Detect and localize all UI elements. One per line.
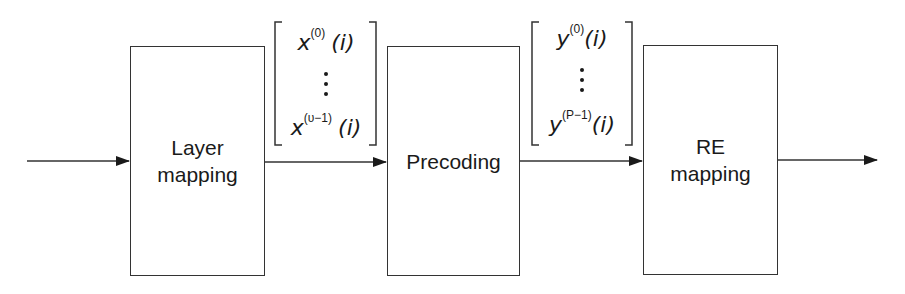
y-symbol: y (557, 26, 570, 51)
x-top-argument: (i) (331, 30, 354, 55)
x-vector-ellipsis (324, 72, 328, 102)
re-mapping-label-2: mapping (670, 160, 751, 187)
y-vector: y(0)(i) y(P−1)(i) (535, 20, 629, 148)
x-symbol: x (291, 115, 304, 140)
precoding-label: Precoding (406, 148, 501, 175)
x-vector-top-entry: x(0) (i) (278, 30, 374, 56)
re-mapping-block: RE mapping (643, 45, 778, 275)
y-symbol: y (549, 112, 562, 137)
layer-mapping-label-2: mapping (157, 161, 238, 188)
layer-mapping-block: Layer mapping (130, 46, 265, 276)
re-mapping-label-1: RE (670, 133, 751, 160)
x-bottom-superscript: (υ−1) (304, 111, 332, 125)
precoding-block: Precoding (387, 46, 520, 276)
layer-mapping-label-1: Layer (157, 134, 238, 161)
y-top-superscript: (0) (570, 22, 585, 36)
x-vector: x(0) (i) x(υ−1) (i) (278, 20, 374, 148)
y-vector-bottom-entry: y(P−1)(i) (535, 112, 629, 138)
y-top-argument: (i) (584, 26, 607, 51)
y-vector-ellipsis (580, 68, 584, 98)
y-vector-top-entry: y(0)(i) (535, 26, 629, 52)
x-top-superscript: (0) (310, 26, 325, 40)
x-vector-bottom-entry: x(υ−1) (i) (278, 115, 374, 141)
y-bottom-superscript: (P−1) (562, 108, 592, 122)
x-symbol: x (297, 30, 310, 55)
x-bottom-argument: (i) (338, 115, 361, 140)
y-bottom-argument: (i) (592, 112, 615, 137)
